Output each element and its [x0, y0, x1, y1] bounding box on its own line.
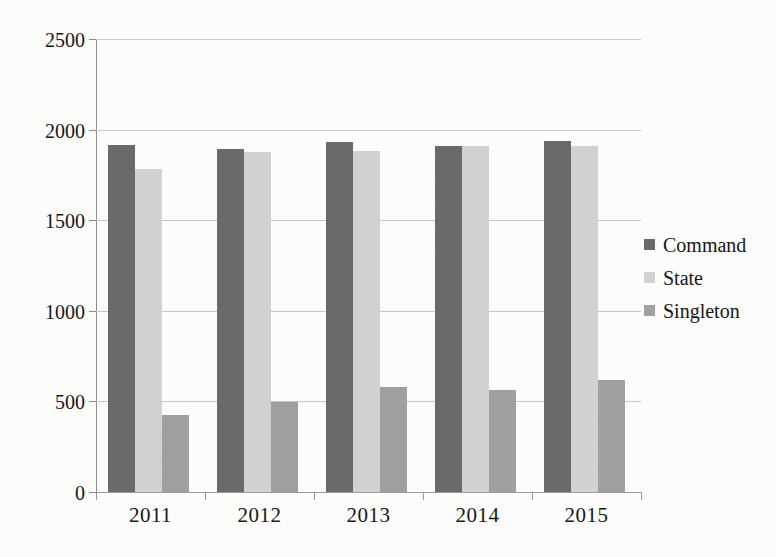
x-tick-label-2011: 2011 [96, 505, 205, 526]
bar-group-2013 [314, 39, 423, 492]
legend-item-command[interactable]: Command [644, 228, 774, 261]
plot-area [96, 39, 641, 492]
bar-2015-singleton[interactable] [598, 380, 625, 492]
bar-2011-state[interactable] [135, 169, 162, 492]
bar-2014-singleton[interactable] [489, 390, 516, 492]
y-tick-label-2500: 2500 [0, 30, 85, 50]
bar-2013-state[interactable] [353, 151, 380, 492]
y-tick-label-2000: 2000 [0, 121, 85, 141]
bar-2015-state[interactable] [571, 146, 598, 492]
bar-2014-command[interactable] [435, 146, 462, 492]
y-tick-label-1000: 1000 [0, 302, 85, 322]
x-axis-separator-3 [423, 492, 424, 500]
gridline-0 [96, 492, 641, 493]
bar-group-2015 [532, 39, 641, 492]
bar-2012-singleton[interactable] [271, 402, 298, 492]
x-tick-label-2012: 2012 [205, 505, 314, 526]
bar-2014-state[interactable] [462, 146, 489, 492]
bar-chart-figure: 2500 2000 1500 1000 500 0 2011 2012 2013… [0, 0, 776, 557]
legend-label-state: State [663, 268, 703, 288]
legend-label-command: Command [663, 235, 746, 255]
x-axis-separator-1 [205, 492, 206, 500]
y-tick-label-500: 500 [0, 392, 85, 412]
chart-legend: Command State Singleton [644, 228, 774, 327]
x-axis-separator-left [96, 492, 97, 500]
legend-swatch-state-icon [644, 272, 655, 283]
bar-group-2014 [423, 39, 532, 492]
x-tick-label-2015: 2015 [532, 505, 641, 526]
x-axis-separator-4 [532, 492, 533, 500]
y-tick-mark-500 [89, 401, 96, 402]
y-tick-label-0: 0 [0, 483, 85, 503]
y-tick-mark-1000 [89, 311, 96, 312]
x-axis-separator-right [641, 492, 642, 500]
legend-swatch-singleton-icon [644, 305, 655, 316]
bar-2013-singleton[interactable] [380, 387, 407, 492]
bar-2012-state[interactable] [244, 152, 271, 492]
bar-2011-singleton[interactable] [162, 415, 189, 492]
x-axis-separator-2 [314, 492, 315, 500]
legend-item-singleton[interactable]: Singleton [644, 294, 774, 327]
legend-label-singleton: Singleton [663, 301, 740, 321]
bar-group-2012 [205, 39, 314, 492]
legend-item-state[interactable]: State [644, 261, 774, 294]
y-tick-mark-1500 [89, 220, 96, 221]
bar-2012-command[interactable] [217, 149, 244, 492]
legend-swatch-command-icon [644, 239, 655, 250]
bar-2015-command[interactable] [544, 141, 571, 493]
bar-2011-command[interactable] [108, 145, 135, 492]
x-tick-label-2013: 2013 [314, 505, 423, 526]
bar-2013-command[interactable] [326, 142, 353, 492]
x-tick-label-2014: 2014 [423, 505, 532, 526]
y-tick-mark-0 [89, 492, 96, 493]
y-tick-mark-2500 [89, 39, 96, 40]
y-tick-label-1500: 1500 [0, 211, 85, 231]
y-tick-mark-2000 [89, 130, 96, 131]
bar-group-2011 [96, 39, 205, 492]
